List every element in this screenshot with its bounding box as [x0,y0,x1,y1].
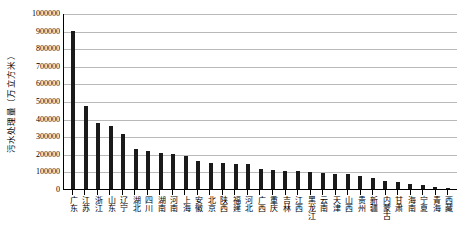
bar-slot [142,14,154,189]
x-axis-tick-mark [347,190,348,195]
bar-slot [154,14,166,189]
tick-slot [329,190,342,195]
x-axis-tick-mark [435,190,436,195]
x-axis-tick-mark [147,190,148,195]
bar-slot [317,14,329,189]
tick-slot [304,190,317,195]
bar-slot [442,14,454,189]
x-axis-tick-mark [285,190,286,195]
tick-slot [104,190,117,195]
x-label-slot: 云南 [316,196,329,243]
bar-slot [429,14,441,189]
bar-slot [254,14,266,189]
x-axis-category-label: 天津 [331,196,339,212]
x-axis-category-label: 山东 [106,196,114,212]
x-axis-category-label: 重庆 [268,196,276,212]
bar [346,174,350,189]
tick-slot [441,190,454,195]
bar-slot [104,14,116,189]
x-axis-tick-mark [397,190,398,195]
tick-slot [216,190,229,195]
tick-slot [404,190,417,195]
bar-slot [192,14,204,189]
y-axis-tick-label: 900000 [36,28,60,36]
x-axis-tick-marks [63,190,457,195]
bar-slot [117,14,129,189]
x-axis-category-label: 云南 [318,196,326,212]
x-axis-tick-mark [84,190,85,195]
x-axis-tick-mark [447,190,448,195]
x-label-slot: 江西 [291,196,304,243]
tick-slot [379,190,392,195]
y-axis-tick-label: 1000000 [32,10,60,18]
bar-slot [229,14,241,189]
x-label-slot: 安徽 [191,196,204,243]
y-axis-tick-label: 800000 [36,45,60,53]
bar-slot [267,14,279,189]
tick-slot [316,190,329,195]
tick-slot [241,190,254,195]
x-axis-tick-mark [159,190,160,195]
x-label-slot: 湖南 [154,196,167,243]
x-axis-tick-mark [109,190,110,195]
x-axis-category-label: 黑龙江 [306,196,314,220]
x-label-slot: 西藏 [441,196,454,243]
bar-slot [379,14,391,189]
tick-slot [279,190,292,195]
x-label-slot: 北京 [204,196,217,243]
x-axis-tick-mark [335,190,336,195]
bar-slot [242,14,254,189]
bar-slot [92,14,104,189]
x-axis-category-label: 陕西 [218,196,226,212]
y-axis-title-text: 污水处理量（万立方米） [7,51,16,153]
tick-slot [229,190,242,195]
x-axis-tick-mark [360,190,361,195]
tick-slot [416,190,429,195]
x-axis-category-labels: 广东江苏浙江山东辽宁湖北四川湖南河南上海安徽北京陕西福建河北广西重庆吉林江西黑龙… [63,196,457,243]
x-axis-tick-mark [234,190,235,195]
y-axis-tick-label: 500000 [36,98,60,106]
x-axis-tick-mark [222,190,223,195]
bar [84,106,88,189]
x-label-slot: 黑龙江 [304,196,317,243]
tick-slot [191,190,204,195]
x-axis-tick-mark [134,190,135,195]
bar-slot [417,14,429,189]
tick-slot [266,190,279,195]
x-axis-category-label: 安徽 [193,196,201,212]
x-axis-tick-mark [322,190,323,195]
tick-slot [341,190,354,195]
bar [421,185,425,189]
bar-chart: 污水处理量（万立方米） 1000000900000800000700000600… [0,0,463,243]
x-label-slot: 青海 [429,196,442,243]
x-axis-category-label: 河南 [168,196,176,212]
x-label-slot: 吉林 [279,196,292,243]
tick-slot [291,190,304,195]
x-axis-tick-mark [297,190,298,195]
tick-slot [391,190,404,195]
x-axis-category-label: 河北 [243,196,251,212]
bar [221,163,225,189]
tick-slot [129,190,142,195]
bar [71,31,75,189]
x-axis-category-label: 北京 [206,196,214,212]
x-axis-category-label: 海南 [406,196,414,212]
x-label-slot: 河北 [241,196,254,243]
bar [146,151,150,189]
x-axis-tick-mark [259,190,260,195]
x-axis-category-label: 新疆 [368,196,376,212]
x-label-slot: 甘肃 [391,196,404,243]
x-axis-category-label: 浙江 [93,196,101,212]
x-axis-tick-mark [122,190,123,195]
bar-slot [204,14,216,189]
bar [109,126,113,189]
bar [383,181,387,189]
y-axis-tick-label: 100000 [36,168,60,176]
x-axis-category-label: 江苏 [81,196,89,212]
bar [184,156,188,189]
x-label-slot: 新疆 [366,196,379,243]
bar [209,163,213,189]
x-label-slot: 河南 [166,196,179,243]
x-label-slot: 海南 [404,196,417,243]
bar-slot [304,14,316,189]
